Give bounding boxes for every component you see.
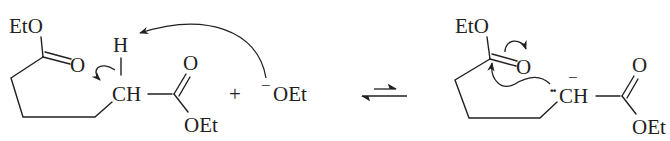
carbon-chain <box>11 57 112 117</box>
lone-pair-dots: ·· <box>549 81 557 100</box>
bond <box>487 37 490 59</box>
product-eto-label: EtO <box>455 14 489 38</box>
bond <box>174 74 186 94</box>
alpha-ch-label: CH <box>112 82 141 106</box>
product-carbonyl-o-label: O <box>516 55 531 79</box>
curved-arrow-icon <box>505 41 526 52</box>
bond <box>174 94 188 112</box>
plus-sign: + <box>229 82 241 106</box>
negative-charge-label: − <box>261 76 271 95</box>
product-molecule: EtO O ·· − CH O OEt <box>455 14 666 139</box>
reactant-eto-label: EtO <box>9 14 43 38</box>
reactant-carbonyl-o-label: O <box>70 53 85 77</box>
ethoxide-label: OEt <box>273 82 307 106</box>
curved-arrow-icon <box>96 66 115 80</box>
reactant-molecule: EtO O H CH O OEt <box>9 14 218 137</box>
product-oet-label: OEt <box>632 115 666 139</box>
reactant-oet-label: OEt <box>184 113 218 137</box>
equilibrium-arrow-icon <box>362 89 407 96</box>
alpha-h-label: H <box>113 33 128 57</box>
curved-arrow-icon <box>140 24 266 78</box>
bond <box>41 37 43 57</box>
bond <box>179 77 190 96</box>
ethoxide-reagent: − OEt <box>261 76 307 106</box>
bond <box>622 76 634 96</box>
carbanion-ch-label: CH <box>559 84 588 108</box>
carbon-chain <box>455 59 557 118</box>
bond <box>627 79 638 98</box>
reaction-scheme: EtO O H CH O OEt + − OEt <box>0 0 670 141</box>
bond <box>622 96 636 114</box>
reactant-right-o-label: O <box>183 51 198 75</box>
product-right-o-label: O <box>632 53 647 77</box>
